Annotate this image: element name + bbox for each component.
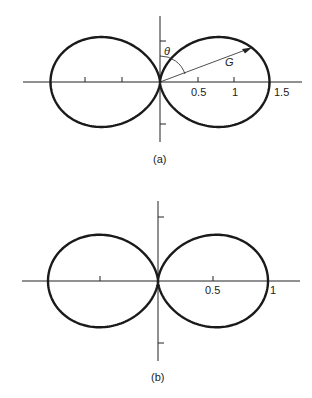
tick-label-a-05: 0.5 (191, 86, 206, 98)
arrow-head-icon (242, 48, 252, 54)
tick-label-a-1: 1 (232, 86, 238, 98)
caption-b: (b) (151, 371, 164, 383)
g-label: G (225, 56, 234, 68)
tick-label-a-15: 1.5 (274, 86, 289, 98)
caption-a: (a) (153, 153, 166, 165)
figure-canvas: θ G 0.5 1 1.5 (a) 0.5 1 (b) (0, 0, 312, 398)
diagram-b: 0.5 1 (b) (22, 201, 300, 383)
g-vector (160, 49, 248, 82)
theta-label: θ (164, 45, 170, 57)
tick-label-b-1: 1 (270, 284, 276, 296)
diagram-a: θ G 0.5 1 1.5 (a) (23, 16, 302, 165)
tick-label-b-05: 0.5 (205, 284, 220, 296)
